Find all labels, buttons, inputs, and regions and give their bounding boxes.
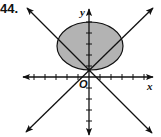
intersection-point <box>87 68 90 71</box>
graph-canvas <box>0 0 161 137</box>
problem-number: 44. <box>0 2 18 15</box>
shaded-ellipse <box>57 22 123 70</box>
x-axis-label: x <box>147 81 153 92</box>
y-axis-label: y <box>80 7 85 18</box>
origin-label: O <box>79 79 88 90</box>
graph-figure: 44. y x O <box>0 0 161 137</box>
